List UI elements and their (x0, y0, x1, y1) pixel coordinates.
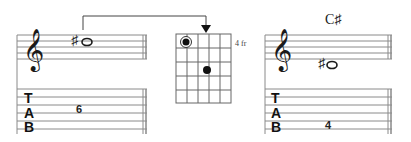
root-dot-icon (181, 37, 192, 48)
right-tab-fret-number: 4 (325, 119, 332, 131)
svg-text:T: T (24, 90, 33, 106)
connector-arrow (83, 16, 206, 30)
fret-position-label: 4 fr (235, 39, 247, 48)
arrow-head-icon (201, 25, 211, 33)
treble-clef-icon: 𝄞 (271, 29, 292, 72)
chord-name: C♯ (325, 12, 342, 27)
left-tab-fret-number: 6 (76, 103, 82, 115)
svg-text:𝄞: 𝄞 (271, 29, 292, 72)
notation-figure: 𝄞 ♯ T A B 6 4 fr (0, 0, 411, 142)
finger-dot-icon (203, 66, 211, 74)
sharp-icon: ♯ (318, 56, 326, 71)
right-note: ♯ (318, 56, 337, 71)
svg-text:B: B (24, 119, 34, 135)
sharp-icon: ♯ (71, 33, 79, 48)
treble-clef-icon: 𝄞 (23, 29, 44, 72)
svg-text:𝄞: 𝄞 (23, 29, 44, 72)
svg-text:B: B (271, 119, 281, 135)
svg-text:T: T (271, 90, 280, 106)
